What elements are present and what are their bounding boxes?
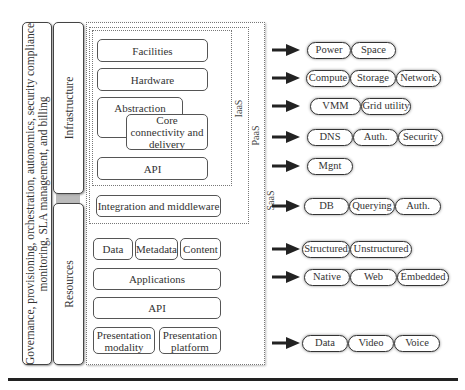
output-row-vmm: VMM Grid utility <box>310 98 411 115</box>
output-row-native: Native Web Embedded <box>304 269 449 286</box>
arrow-icon <box>272 243 300 255</box>
pill-space: Space <box>351 42 396 59</box>
presentation-modality-box: Presentation modality <box>93 327 155 354</box>
content-box: Content <box>180 238 221 260</box>
output-row-db: DB Querying Auth. <box>304 198 441 215</box>
governance-bar: Governance, provisioning, orchestration,… <box>22 22 52 365</box>
pill-network: Network <box>396 70 441 87</box>
arrow-icon <box>272 131 300 143</box>
iaas-label: IaaS <box>233 100 244 118</box>
governance-label: Governance, provisioning, orchestration,… <box>24 22 50 364</box>
arrow-icon <box>272 200 300 212</box>
arrow-icon <box>272 337 300 349</box>
pill-video: Video <box>348 335 394 352</box>
facilities-box: Facilities <box>97 39 208 62</box>
arrow-icon <box>272 72 300 84</box>
pill-structured: Structured <box>302 241 350 258</box>
governance-line-2: monitoring, SLA management, and billing <box>37 22 50 364</box>
core-connectivity-box: Core connectivity and delivery <box>126 114 208 150</box>
integration-middleware-box: Integration and middleware <box>96 195 221 217</box>
governance-line-1: Governance, provisioning, orchestration,… <box>24 22 37 364</box>
output-row-compute: Compute Storage Network <box>306 70 441 87</box>
arrow-icon <box>272 160 300 172</box>
metadata-box: Metadata <box>135 238 178 260</box>
api-resources-box: API <box>93 297 221 319</box>
output-row-structured: Structured Unstructured <box>302 241 412 258</box>
pill-db: DB <box>304 198 349 215</box>
output-row-dns: DNS Auth. Security <box>307 129 443 146</box>
presentation-platform-box: Presentation platform <box>159 327 221 354</box>
data-box: Data <box>93 238 133 260</box>
pill-data: Data <box>302 335 348 352</box>
pill-querying: Querying <box>349 198 395 215</box>
pill-web: Web <box>350 269 397 286</box>
bottom-rule <box>8 378 458 381</box>
pill-voice: Voice <box>394 335 440 352</box>
output-row-data: Data Video Voice <box>302 335 440 352</box>
resources-bar: Resources <box>53 203 84 365</box>
pill-auth: Auth. <box>353 129 398 146</box>
pill-dns: DNS <box>307 129 353 146</box>
abstraction-label: Abstraction <box>114 102 165 114</box>
pill-unstructured: Unstructured <box>350 241 412 258</box>
arrow-icon <box>272 44 300 56</box>
pill-embedded: Embedded <box>397 269 449 286</box>
infrastructure-bar: Infrastructure <box>53 22 84 194</box>
pill-storage: Storage <box>350 70 396 87</box>
arrow-icon <box>272 100 300 112</box>
infrastructure-label: Infrastructure <box>62 77 75 140</box>
pill-mgnt: Mgnt <box>307 158 353 175</box>
resources-label: Resources <box>62 260 75 307</box>
pill-power: Power <box>307 42 351 59</box>
api-infra-box: API <box>97 157 208 180</box>
pill-auth-db: Auth. <box>395 198 441 215</box>
applications-box: Applications <box>93 268 221 290</box>
pill-vmm: VMM <box>310 98 361 115</box>
arrow-icon <box>272 271 300 283</box>
output-row-power-space: Power Space <box>307 42 396 59</box>
pill-grid-utility: Grid utility <box>361 98 411 115</box>
hardware-box: Hardware <box>97 68 208 91</box>
output-row-mgnt: Mgnt <box>307 158 353 175</box>
pill-native: Native <box>304 269 350 286</box>
pill-compute: Compute <box>306 70 350 87</box>
paas-label: PaaS <box>250 126 261 146</box>
pill-security: Security <box>398 129 443 146</box>
